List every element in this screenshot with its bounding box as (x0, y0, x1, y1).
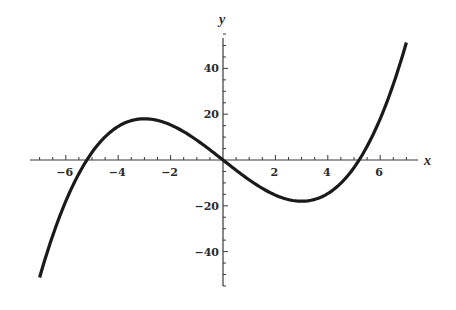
x-axis-tick-labels: −6−4−2246 (56, 166, 383, 179)
y-tick-label: −40 (194, 246, 219, 259)
y-axis-label: y (217, 12, 226, 27)
x-tick-label: −6 (56, 166, 73, 179)
x-tick-label: −4 (109, 166, 126, 179)
x-tick-label: 4 (323, 166, 331, 179)
x-tick-label: 2 (271, 166, 279, 179)
x-tick-label: 6 (375, 166, 383, 179)
y-tick-label: 40 (204, 62, 220, 75)
y-tick-label: 20 (204, 108, 220, 121)
cubic-function-plot: −6−4−2246 4020−20−40 x y (0, 0, 456, 310)
x-axis-label: x (423, 153, 431, 168)
y-tick-label: −20 (194, 200, 219, 213)
x-tick-label: −2 (161, 166, 178, 179)
